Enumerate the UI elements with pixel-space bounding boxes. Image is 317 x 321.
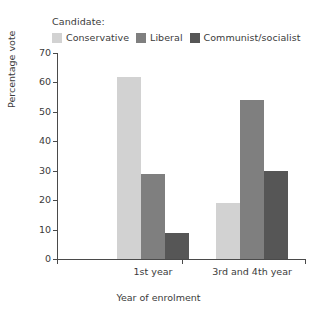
legend-entry: Communist/socialist [190, 32, 301, 43]
y-tick-label: 20 [39, 194, 51, 205]
bar [117, 77, 141, 259]
legend-label: Liberal [150, 32, 183, 43]
legend-entry: Conservative [52, 32, 129, 43]
plot-area: 010203040506070 1st year3rd and 4th year [57, 53, 306, 259]
legend-label: Communist/socialist [204, 32, 301, 43]
y-axis-title: Percentage vote [6, 31, 17, 108]
legend-swatch-icon [136, 33, 146, 43]
legend-swatch-icon [52, 33, 62, 43]
y-tick-label: 10 [39, 224, 51, 235]
bar-chart-figure: Candidate: ConservativeLiberalCommunist/… [0, 0, 317, 321]
chart-legend: Candidate: ConservativeLiberalCommunist/… [52, 16, 310, 43]
bar [141, 174, 165, 259]
bar [264, 171, 288, 259]
y-tick-label: 60 [39, 76, 51, 87]
legend-title: Candidate: [52, 16, 310, 27]
x-tick-mark [305, 260, 306, 264]
bar [216, 203, 240, 259]
y-tick-label: 70 [39, 47, 51, 58]
x-category-label: 1st year [134, 266, 173, 277]
y-tick-label: 50 [39, 106, 51, 117]
x-axis-title: Year of enrolment [0, 292, 317, 303]
x-tick-mark [57, 260, 58, 264]
x-tick-mark [182, 260, 183, 264]
x-category-label: 3rd and 4th year [212, 266, 292, 277]
bar [165, 233, 189, 259]
legend-label: Conservative [66, 32, 129, 43]
legend-swatch-icon [190, 33, 200, 43]
legend-entry: Liberal [136, 32, 183, 43]
y-tick-label: 30 [39, 165, 51, 176]
y-tick-label: 0 [45, 253, 51, 264]
bars-layer [57, 53, 306, 259]
y-tick-label: 40 [39, 135, 51, 146]
legend-entries: ConservativeLiberalCommunist/socialist [52, 32, 310, 43]
bar [240, 100, 264, 259]
